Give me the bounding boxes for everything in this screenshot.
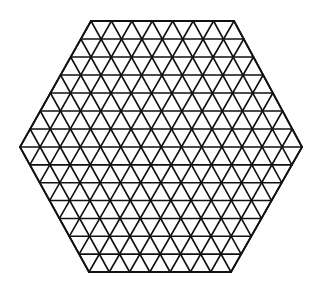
grid-lines [20, 21, 302, 272]
grid-line [61, 75, 171, 272]
grid-line [190, 111, 282, 272]
triangular-grid-hexagon [0, 0, 317, 291]
grid-line [152, 21, 261, 218]
grid-line [40, 21, 132, 183]
